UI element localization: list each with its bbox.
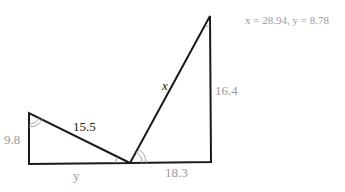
angle-arc-left-top-outer — [29, 119, 42, 127]
label-right-vertical: 16.4 — [215, 83, 238, 98]
label-hypotenuse-left: 15.5 — [73, 119, 96, 134]
right-triangle — [130, 16, 211, 163]
label-hypotenuse-right: x — [161, 78, 168, 93]
label-bottom-left: y — [73, 168, 80, 183]
angle-arc-left-bottom — [116, 157, 117, 163]
geometry-diagram: 9.8 15.5 y 18.3 x 16.4 x = 28.94, y = 8.… — [0, 0, 345, 192]
label-bottom-right: 18.3 — [165, 165, 188, 180]
answer-text: x = 28.94, y = 8.78 — [245, 14, 329, 26]
label-left-vertical: 9.8 — [4, 132, 20, 147]
angle-arc-right-bottom-inner — [136, 152, 142, 163]
angle-arc-left-top-inner — [29, 118, 39, 124]
